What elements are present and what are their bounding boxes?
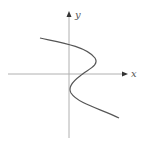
x-axis-label: x xyxy=(131,68,137,79)
x-axis-arrow-icon xyxy=(122,72,128,77)
curve xyxy=(40,38,119,118)
diagram: x y xyxy=(0,0,142,145)
y-axis-arrow-icon xyxy=(67,11,72,17)
y-axis-label: y xyxy=(74,9,81,20)
